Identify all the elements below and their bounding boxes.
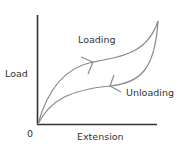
unloading-arrow-icon [110,75,121,92]
x-axis-label: Extension [77,131,124,142]
unloading-label: Unloading [126,87,174,98]
y-axis-label: Load [5,68,28,79]
loading-label: Loading [78,34,115,45]
origin-label: 0 [27,128,33,139]
